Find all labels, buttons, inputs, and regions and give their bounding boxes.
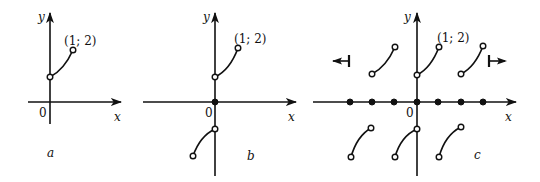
open-endpoint bbox=[392, 44, 398, 50]
function-curve-upper bbox=[215, 48, 238, 77]
panel-c: (1; 2) 0 x y c bbox=[313, 10, 516, 176]
open-endpoint bbox=[436, 154, 442, 160]
function-curve bbox=[351, 128, 371, 157]
filled-point bbox=[369, 99, 375, 105]
open-endpoint bbox=[458, 71, 464, 77]
open-endpoint bbox=[212, 126, 218, 132]
point-label: (1; 2) bbox=[64, 34, 97, 48]
origin-label: 0 bbox=[406, 106, 414, 120]
origin-label: 0 bbox=[205, 106, 213, 120]
open-endpoint bbox=[212, 74, 218, 80]
filled-point bbox=[458, 99, 464, 105]
open-endpoint bbox=[414, 126, 420, 132]
function-curve bbox=[395, 129, 417, 157]
open-endpoint bbox=[368, 125, 374, 131]
lower-curves bbox=[348, 124, 464, 160]
diagram-canvas: (1; 2) 0 x y a (1; 2) 0 x y b bbox=[0, 0, 540, 182]
function-curve bbox=[439, 127, 461, 157]
open-endpoint bbox=[190, 153, 196, 159]
open-endpoint bbox=[348, 154, 354, 160]
open-endpoint bbox=[480, 43, 486, 49]
filled-point bbox=[480, 99, 486, 105]
function-curve bbox=[461, 46, 483, 74]
panel-a: (1; 2) 0 x y a bbox=[28, 10, 121, 160]
continue-right-arrow-icon bbox=[489, 55, 507, 67]
point-label: (1; 2) bbox=[234, 32, 267, 46]
panel-caption: c bbox=[474, 148, 481, 162]
open-endpoint bbox=[70, 47, 76, 53]
x-axis-label: x bbox=[505, 110, 512, 124]
function-curve bbox=[50, 50, 73, 77]
function-curve bbox=[417, 47, 439, 75]
open-endpoint bbox=[458, 124, 464, 130]
continue-left-arrow-icon bbox=[332, 55, 349, 67]
filled-point bbox=[414, 99, 420, 105]
filled-point bbox=[347, 99, 353, 105]
panel-caption: b bbox=[247, 149, 255, 163]
x-axis-label: x bbox=[114, 110, 121, 124]
y-axis-label: y bbox=[202, 10, 210, 24]
y-axis-label: y bbox=[37, 10, 45, 24]
filled-point bbox=[435, 99, 441, 105]
panel-b: (1; 2) 0 x y b bbox=[143, 10, 296, 176]
y-axis-label: y bbox=[403, 10, 411, 24]
function-curve-lower bbox=[193, 129, 215, 156]
open-endpoint bbox=[436, 44, 442, 50]
open-endpoint bbox=[47, 74, 53, 80]
filled-point bbox=[391, 99, 397, 105]
origin-label: 0 bbox=[39, 106, 47, 120]
x-axis-label: x bbox=[288, 110, 295, 124]
point-label: (1; 2) bbox=[437, 31, 470, 45]
upper-curves bbox=[369, 43, 486, 78]
open-endpoint bbox=[235, 45, 241, 51]
open-endpoint bbox=[414, 72, 420, 78]
filled-point bbox=[212, 99, 218, 105]
open-endpoint bbox=[392, 154, 398, 160]
panel-caption: a bbox=[47, 146, 54, 160]
function-curve bbox=[372, 47, 395, 74]
open-endpoint bbox=[369, 71, 375, 77]
